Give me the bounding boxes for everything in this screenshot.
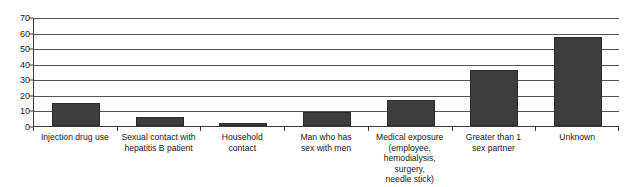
x-axis-tick-label: Medical exposure(employee,hemodialysis, … [368,132,452,185]
x-axis-tick-label: Unknown [535,132,619,143]
bar[interactable] [303,112,351,126]
x-axis-tick-mark [200,127,201,131]
x-axis-tick-mark [452,127,453,131]
x-axis-tick-label-line: hepatitis B patient [117,143,201,154]
x-axis-tick-label-line: contact [200,143,284,154]
bar-slot [285,18,369,126]
x-axis-tick-label-line: Medical exposure [368,132,452,143]
bar[interactable] [219,123,267,126]
bar-slot [118,18,202,126]
x-axis-tick-label: Man who hassex with men [284,132,368,153]
x-axis-tick-labels: Injection drug useSexual contact withhep… [33,132,619,187]
x-axis-tick-label: Greater than 1sex partner [452,132,536,153]
x-axis-tick-label-line: needle stick) [368,174,452,185]
y-axis-tick-marks [0,18,33,127]
bars-layer [34,18,619,126]
x-axis-tick-label-line: Unknown [535,132,619,143]
bar-slot [453,18,537,126]
x-axis-tick-label-line: Injection drug use [33,132,117,143]
x-axis-tick-label-line: (employee, [368,143,452,154]
x-axis-tick-label-line: Greater than 1 [452,132,536,143]
bar[interactable] [470,70,518,126]
bar-slot [34,18,118,126]
x-axis-tick-label-line: Man who has [284,132,368,143]
bar-slot [201,18,285,126]
x-axis-tick-label-line: sex partner [452,143,536,154]
x-axis-tick-label: Householdcontact [200,132,284,153]
x-axis-tick-label-line: Household [200,132,284,143]
bar-slot [536,18,620,126]
x-axis-tick-mark [535,127,536,131]
x-axis-tick-label: Injection drug use [33,132,117,143]
bar-chart: 706050403020100 Injection drug useSexual… [0,0,630,187]
bar[interactable] [554,37,602,126]
x-axis-tick-label-line: hemodialysis, surgery, [368,153,452,174]
x-axis-tick-mark [618,127,619,131]
x-axis-tick-marks [33,127,619,131]
x-axis-tick-label-line: sex with men [284,143,368,154]
bar-slot [369,18,453,126]
plot-area [33,18,619,127]
bar[interactable] [387,100,435,126]
x-axis-tick-mark [284,127,285,131]
x-axis-tick-mark [33,127,34,131]
x-axis-tick-label-line: Sexual contact with [117,132,201,143]
bar[interactable] [136,117,184,126]
x-axis-tick-label: Sexual contact withhepatitis B patient [117,132,201,153]
x-axis-tick-mark [117,127,118,131]
bar[interactable] [52,103,100,126]
x-axis-tick-mark [368,127,369,131]
